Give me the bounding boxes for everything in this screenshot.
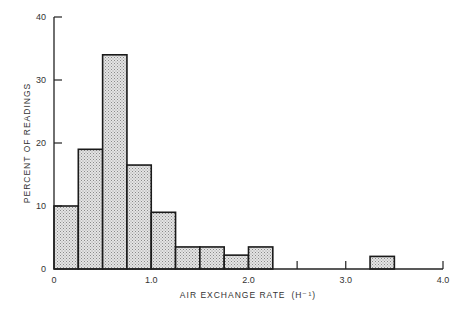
histogram-chart: 010203040 01.02.03.04.0 AIR EXCHANGE RAT… — [0, 0, 470, 313]
x-tick-label: 0 — [51, 275, 56, 285]
histogram-bar — [78, 149, 102, 269]
x-axis-title: AIR EXCHANGE RATE(H⁻¹) — [180, 290, 316, 300]
y-tick-label: 10 — [36, 201, 46, 211]
x-tick-label: 4.0 — [437, 275, 450, 285]
x-tick-label: 1.0 — [145, 275, 158, 285]
histogram-bars — [54, 55, 394, 269]
histogram-bar — [370, 256, 394, 269]
histogram-bar — [200, 247, 224, 269]
x-tick-label: 2.0 — [242, 275, 255, 285]
y-axis-title: PERCENT OF READINGS — [22, 83, 32, 203]
histogram-bar — [176, 247, 200, 269]
y-tick-label: 0 — [41, 264, 46, 274]
histogram-bar — [151, 212, 175, 269]
histogram-bar — [54, 206, 78, 269]
y-tick-label: 20 — [36, 138, 46, 148]
histogram-bar — [103, 55, 127, 269]
histogram-bar — [224, 255, 248, 269]
x-tick-label: 3.0 — [339, 275, 352, 285]
histogram-bar — [249, 247, 273, 269]
y-tick-label: 30 — [36, 75, 46, 85]
histogram-bar — [127, 165, 151, 269]
y-tick-label: 40 — [36, 12, 46, 22]
